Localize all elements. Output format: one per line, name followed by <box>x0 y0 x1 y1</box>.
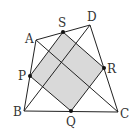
label-s: S <box>58 16 66 30</box>
label-q: Q <box>66 115 76 129</box>
geometry-diagram: A D S P R B Q C <box>0 0 139 133</box>
label-a: A <box>24 32 34 46</box>
point-q <box>69 109 73 113</box>
point-s <box>61 30 65 34</box>
point-p <box>28 74 32 78</box>
label-c: C <box>120 107 129 121</box>
point-r <box>102 66 106 70</box>
label-b: B <box>13 105 22 119</box>
label-p: P <box>18 69 26 83</box>
label-r: R <box>107 62 117 76</box>
label-d: D <box>87 10 97 24</box>
